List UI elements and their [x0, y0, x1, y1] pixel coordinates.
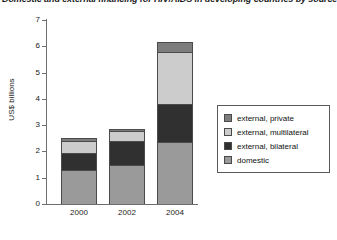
bar-2000[interactable]	[61, 138, 97, 204]
y-tick-label: 3	[26, 120, 40, 129]
y-tick-label: 1	[26, 173, 40, 182]
legend-item[interactable]: external, multilateral	[224, 125, 324, 139]
bar-segment[interactable]	[109, 131, 145, 141]
y-tick-label: 6	[26, 41, 40, 50]
bar-segment[interactable]	[157, 104, 193, 142]
x-tick-label-2002: 2002	[102, 208, 152, 217]
legend-label: external, private	[237, 114, 294, 123]
bar-segment[interactable]	[109, 141, 145, 164]
chart-figure: US$ billions 01234567 200020022004 exter…	[0, 7, 337, 240]
legend-item[interactable]: external, private	[224, 111, 324, 125]
bar-2004[interactable]	[157, 42, 193, 204]
y-tick-label: 5	[26, 68, 40, 77]
x-axis-line	[46, 204, 198, 205]
legend-swatch-icon	[224, 114, 232, 122]
chart-legend: external, privateexternal, multilaterale…	[217, 105, 330, 173]
y-axis-title: US$ billions	[7, 65, 16, 135]
legend-item[interactable]: external, bilateral	[224, 139, 324, 153]
figure-title-text: Domestic and external financing for HIV/…	[2, 0, 337, 4]
x-tick-label-2004: 2004	[150, 208, 200, 217]
bar-segment[interactable]	[61, 170, 97, 204]
bar-segment[interactable]	[157, 142, 193, 204]
bar-segment[interactable]	[61, 153, 97, 170]
y-tick-mark	[42, 204, 47, 205]
y-tick-label: 0	[26, 199, 40, 208]
plot-area	[47, 20, 197, 204]
legend-label: domestic	[237, 156, 269, 165]
bar-segment[interactable]	[157, 52, 193, 105]
y-tick-label: 2	[26, 146, 40, 155]
figure-title-clipped: Domestic and external financing for HIV/…	[0, 0, 337, 7]
legend-swatch-icon	[224, 156, 232, 164]
y-tick-label: 4	[26, 94, 40, 103]
bar-2002[interactable]	[109, 129, 145, 204]
bar-segment[interactable]	[109, 165, 145, 204]
x-tick-label-2000: 2000	[54, 208, 104, 217]
y-tick-label: 7	[26, 15, 40, 24]
legend-label: external, multilateral	[237, 128, 309, 137]
legend-label: external, bilateral	[237, 142, 298, 151]
legend-swatch-icon	[224, 142, 232, 150]
bar-segment[interactable]	[61, 141, 97, 153]
legend-swatch-icon	[224, 128, 232, 136]
bar-segment[interactable]	[157, 42, 193, 51]
legend-item[interactable]: domestic	[224, 153, 324, 167]
